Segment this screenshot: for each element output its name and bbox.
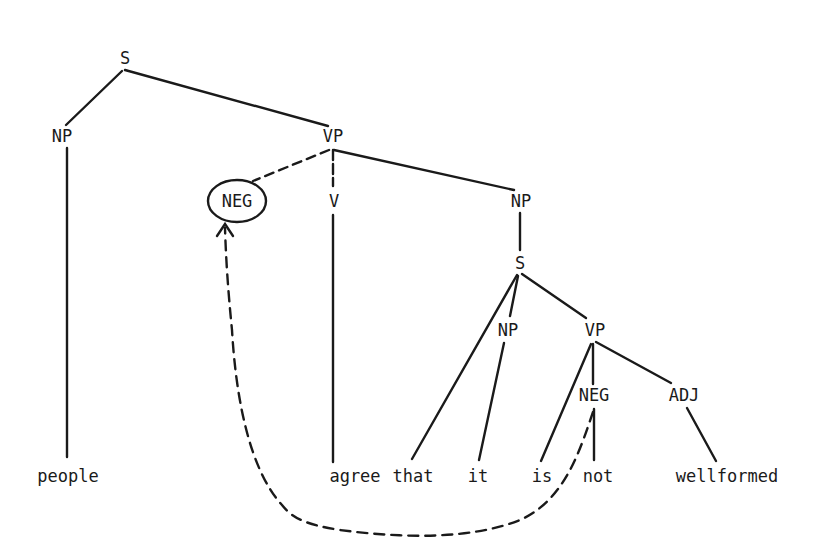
node-np-subject: NP: [52, 128, 72, 145]
node-adj: ADJ: [669, 387, 700, 404]
edge-adj-wellformed: [687, 408, 716, 461]
neg-raising-arrow: [225, 228, 593, 536]
node-np-object: NP: [511, 193, 531, 210]
edge-vp-np: [334, 150, 514, 190]
word-it: it: [468, 468, 488, 485]
word-agree: agree: [329, 468, 380, 485]
node-v-main: V: [328, 193, 340, 210]
node-neg-raised: NEG: [222, 193, 253, 210]
edge-s-that: [412, 275, 517, 459]
word-people: people: [37, 468, 98, 485]
word-is: is: [532, 468, 552, 485]
node-s-root: S: [120, 50, 130, 67]
edge-s-vp2: [522, 274, 586, 318]
edge-s-vp: [125, 70, 328, 126]
node-vp-main: VP: [323, 128, 343, 145]
node-np-embedded: NP: [498, 322, 518, 339]
node-neg-embedded: NEG: [579, 387, 610, 404]
word-wellformed: wellformed: [676, 468, 778, 485]
node-vp-embedded: VP: [585, 322, 605, 339]
edge-vp-neg-dashed: [253, 150, 329, 181]
node-s-embedded: S: [515, 255, 525, 272]
word-not: not: [583, 468, 614, 485]
word-that: that: [393, 468, 434, 485]
edge-s-np: [66, 71, 122, 125]
edge-np-it: [479, 343, 504, 460]
edge-vp-adj: [596, 342, 671, 383]
